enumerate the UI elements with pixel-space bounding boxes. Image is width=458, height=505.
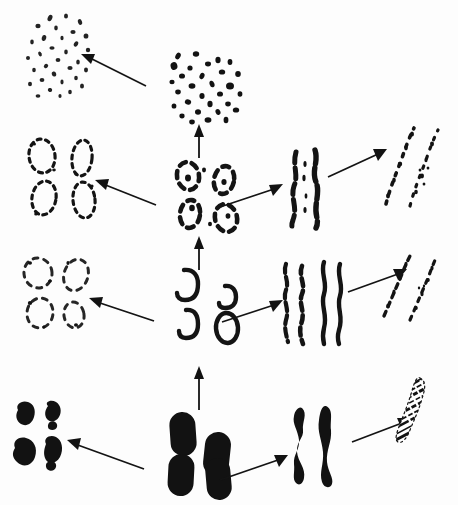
arrow-shaft	[103, 184, 156, 205]
arrow-r2-center-to-left	[92, 174, 160, 210]
node-r1-center	[168, 50, 252, 126]
arrow-head	[194, 236, 204, 249]
arrow-r4-center-to-left	[64, 434, 148, 474]
node-r4-far-right	[390, 376, 452, 448]
arrow-head	[194, 366, 204, 379]
arrow-r2-to-r1	[190, 124, 208, 158]
arrow-head	[67, 438, 81, 450]
arrow-r1-center-to-left	[78, 48, 152, 92]
arrow-r4-center-to-right	[216, 450, 292, 486]
node-r3-far-right	[378, 254, 452, 328]
node-r2-far-right	[376, 126, 448, 212]
arrow-r3-center-to-right	[218, 296, 286, 328]
node-r3-right	[278, 260, 350, 352]
solid-dot-cluster-glyph	[169, 51, 242, 124]
arrow-head	[194, 124, 204, 137]
dashed-ring-array-glyph	[27, 137, 97, 219]
arrow-head	[89, 297, 103, 308]
arrow-shaft	[88, 57, 146, 86]
chromosome-cycle-figure	[0, 0, 458, 505]
arrow-r2-center-to-right	[216, 180, 286, 212]
arrow-head	[269, 184, 283, 196]
thick-arm-pair-glyph	[294, 406, 333, 487]
arrow-shaft	[75, 444, 144, 469]
arrow-shaft	[220, 460, 278, 480]
arrow-shaft	[328, 154, 378, 177]
dotted-strand-pair-glyph	[386, 128, 438, 206]
wavy-strand-pair-glyph	[285, 262, 341, 344]
node-r4-right	[290, 406, 350, 492]
arrow-r3-center-to-left	[86, 292, 158, 326]
arrow-r3-to-r2	[190, 236, 208, 270]
dashed-ring-flecks	[32, 142, 94, 215]
rough-blob-array-glyph	[13, 401, 62, 471]
arrow-r4-to-r3	[190, 366, 208, 410]
dashed-strand-pair-glyph	[384, 256, 436, 320]
arrow-shaft	[222, 305, 274, 322]
arrow-shaft	[220, 189, 274, 207]
arrow-head	[81, 54, 95, 64]
arrow-shaft	[97, 302, 154, 321]
faint-ring-array-glyph	[21, 255, 92, 329]
beaded-strand-pair-glyph	[292, 150, 318, 230]
arrow-head	[95, 179, 109, 190]
banded-chromosome-glyph	[387, 364, 455, 454]
